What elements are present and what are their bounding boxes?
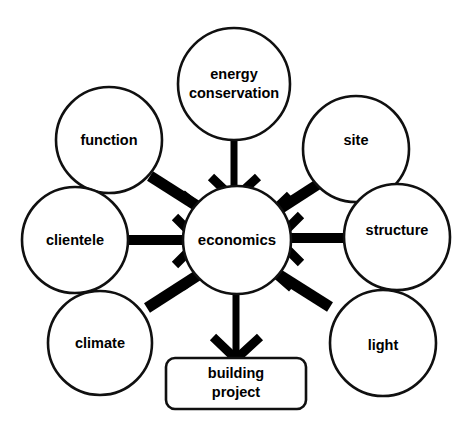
building-project-label-line1: building — [208, 365, 264, 381]
clientele-label: clientele — [46, 232, 104, 248]
arrow-economics-to-building-project — [213, 292, 260, 359]
diagram-svg: economics energy conservation function c… — [0, 0, 471, 435]
structure-label: structure — [366, 222, 429, 238]
economics-label: economics — [198, 231, 276, 248]
node-climate[interactable]: climate — [48, 291, 152, 395]
diagram-canvas: economics energy conservation function c… — [0, 0, 471, 435]
climate-label: climate — [75, 335, 125, 351]
building-project-label-line2: project — [212, 384, 261, 400]
light-label: light — [368, 337, 399, 353]
node-economics[interactable]: economics — [183, 186, 291, 294]
energy-conservation-label-line1: energy — [210, 66, 258, 82]
node-building-project[interactable]: building project — [166, 358, 306, 409]
node-energy-conservation[interactable]: energy conservation — [178, 28, 290, 140]
site-label: site — [344, 132, 369, 148]
node-clientele[interactable]: clientele — [22, 187, 128, 293]
function-label: function — [80, 132, 137, 148]
node-light[interactable]: light — [330, 290, 436, 396]
node-function[interactable]: function — [56, 87, 162, 193]
energy-conservation-label-line2: conservation — [189, 85, 279, 101]
node-structure[interactable]: structure — [344, 184, 450, 290]
